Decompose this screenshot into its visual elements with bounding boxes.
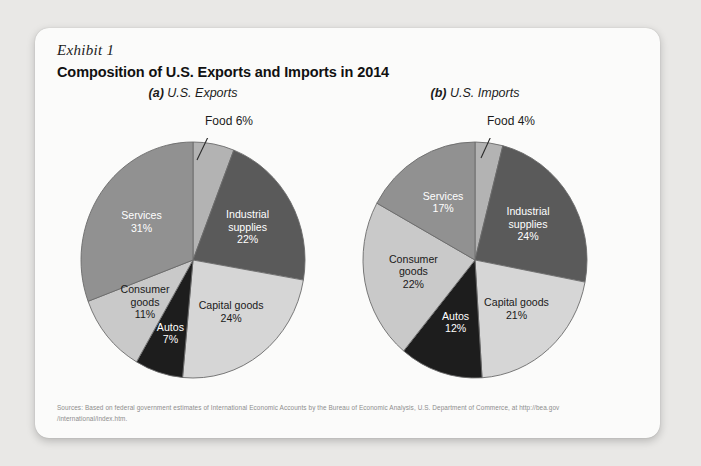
pie-chart-imports: Industrialsupplies24%Capital goods21%Aut… [353, 138, 597, 382]
pie-slices-exports [81, 142, 305, 378]
food-callout-imports: Food 4% [487, 114, 535, 128]
exhibit-title: Composition of U.S. Exports and Imports … [57, 64, 389, 80]
exhibit-label: Exhibit 1 [57, 42, 114, 59]
sources-line-2: /international/index.htm. [57, 413, 637, 424]
pie-wrap-exports: Industrialsupplies22%Capital goods24%Aut… [71, 138, 315, 382]
pie-slice-label: Autos12% [442, 309, 469, 334]
exhibit-page: Exhibit 1 Composition of U.S. Exports an… [0, 0, 701, 466]
sources-line-1: Sources: Based on federal government est… [57, 402, 637, 413]
chart-subtitle-imports-rest: U.S. Imports [447, 86, 520, 100]
chart-subtitle-exports-prefix: (a) [149, 86, 164, 100]
pie-wrap-imports: Industrialsupplies24%Capital goods21%Aut… [353, 138, 597, 382]
chart-us-exports: (a) U.S. Exports Food 6% Industrialsuppl… [53, 86, 333, 386]
chart-subtitle-imports-prefix: (b) [431, 86, 447, 100]
sources-note: Sources: Based on federal government est… [57, 402, 637, 424]
chart-subtitle-imports: (b) U.S. Imports [335, 86, 615, 100]
pie-chart-exports: Industrialsupplies22%Capital goods24%Aut… [71, 138, 315, 382]
food-callout-exports: Food 6% [205, 114, 253, 128]
chart-us-imports: (b) U.S. Imports Food 4% Industrialsuppl… [335, 86, 615, 386]
chart-subtitle-exports-rest: U.S. Exports [164, 86, 238, 100]
chart-subtitle-exports: (a) U.S. Exports [53, 86, 333, 100]
exhibit-card: Exhibit 1 Composition of U.S. Exports an… [35, 28, 660, 438]
pie-slice [183, 260, 304, 378]
